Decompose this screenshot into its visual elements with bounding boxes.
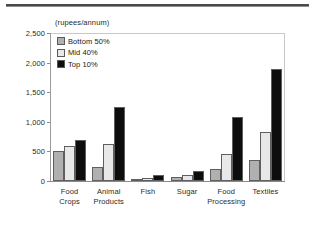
bar xyxy=(75,140,86,181)
x-axis-label-line: Food xyxy=(207,187,246,197)
bar xyxy=(131,179,142,181)
bar xyxy=(142,178,153,181)
x-axis-label-line: Crops xyxy=(50,197,89,207)
y-tick-label: 1,000 xyxy=(26,117,45,126)
bar xyxy=(271,69,282,181)
bar xyxy=(153,175,164,182)
chart-legend: Bottom 50%Mid 40%Top 10% xyxy=(57,37,110,68)
y-tick-label: 2,500 xyxy=(26,29,45,38)
bar xyxy=(182,175,193,182)
legend-label: Bottom 50% xyxy=(68,37,110,46)
x-axis-label: FoodProcessing xyxy=(207,187,246,206)
x-axis-label: Textiles xyxy=(246,187,285,197)
x-axis-line xyxy=(50,181,285,182)
legend-label: Mid 40% xyxy=(68,48,98,57)
bar-group xyxy=(207,33,246,181)
x-axis-label: Fish xyxy=(128,187,167,197)
bar xyxy=(64,146,75,181)
y-tick-label: 500 xyxy=(32,147,45,156)
bar xyxy=(260,132,271,181)
top-divider-rule-shadow xyxy=(6,6,309,7)
x-axis-label-line: Food xyxy=(50,187,89,197)
x-axis-label: Sugar xyxy=(168,187,207,197)
legend-label: Top 10% xyxy=(68,60,98,69)
bar xyxy=(114,107,125,181)
bar xyxy=(193,171,204,181)
y-tick-label: 1,500 xyxy=(26,88,45,97)
bar xyxy=(249,160,260,181)
bar xyxy=(171,177,182,181)
y-tick-label: 0 xyxy=(41,177,45,186)
legend-swatch-icon xyxy=(57,49,65,57)
legend-item: Top 10% xyxy=(57,60,110,68)
legend-item: Bottom 50% xyxy=(57,37,110,45)
y-axis-unit-label: (rupees/annum) xyxy=(55,18,109,27)
x-axis-label-line: Processing xyxy=(207,197,246,207)
bar xyxy=(232,117,243,181)
x-axis-label: AnimalProducts xyxy=(89,187,128,206)
legend-swatch-icon xyxy=(57,37,65,45)
bar-group xyxy=(128,33,167,181)
x-axis-label-line: Sugar xyxy=(168,187,207,197)
x-axis-label-line: Textiles xyxy=(246,187,285,197)
legend-item: Mid 40% xyxy=(57,49,110,57)
x-axis-label: FoodCrops xyxy=(50,187,89,206)
bar-group xyxy=(246,33,285,181)
bar xyxy=(103,144,114,181)
bar xyxy=(92,167,103,181)
bar-chart-figure: (rupees/annum) 05001,0001,5002,0002,500 … xyxy=(0,0,313,229)
bar-group xyxy=(168,33,207,181)
x-axis-label-line: Fish xyxy=(128,187,167,197)
bar xyxy=(53,151,64,181)
bar xyxy=(221,154,232,181)
bar xyxy=(210,169,221,181)
x-axis-label-line: Animal xyxy=(89,187,128,197)
x-axis-label-line: Products xyxy=(89,197,128,207)
legend-swatch-icon xyxy=(57,60,65,68)
y-tick-label: 2,000 xyxy=(26,58,45,67)
y-tick-mark xyxy=(47,181,50,182)
